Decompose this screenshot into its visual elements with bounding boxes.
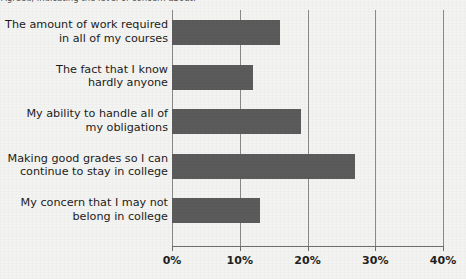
bar xyxy=(172,109,301,134)
gridline-40pct xyxy=(443,10,444,246)
category-label-line: My concern that I may not xyxy=(0,196,168,210)
x-tick-30pct xyxy=(375,246,376,251)
category-label: My concern that I may notbelong in colle… xyxy=(0,196,168,223)
category-label-line: The fact that I know xyxy=(0,63,168,77)
bar xyxy=(172,198,260,223)
x-tick-label: 20% xyxy=(294,254,320,267)
category-label: My ability to handle all ofmy obligation… xyxy=(0,107,168,134)
x-tick-label: 30% xyxy=(362,254,388,267)
x-tick-40pct xyxy=(443,246,444,251)
category-label-line: belong in college xyxy=(0,210,168,224)
x-tick-label: 10% xyxy=(227,254,253,267)
bar xyxy=(172,65,253,90)
category-label: The fact that I knowhardly anyone xyxy=(0,63,168,90)
figure-caption-clipped: Agreed, indicating the level of concern … xyxy=(0,0,466,5)
category-label-line: continue to stay in college xyxy=(0,165,168,179)
category-label-line: hardly anyone xyxy=(0,76,168,90)
x-tick-20pct xyxy=(308,246,309,251)
chart-page: Agreed, indicating the level of concern … xyxy=(0,0,466,279)
gridline-30pct xyxy=(375,10,376,246)
bar xyxy=(172,20,280,45)
bar-chart-plot-area: 0%10%20%30%40% The amount of work requir… xyxy=(0,10,466,256)
x-tick-label: 40% xyxy=(430,254,456,267)
category-label: The amount of work requiredin all of my … xyxy=(0,18,168,45)
category-label-line: in all of my courses xyxy=(0,32,168,46)
figure-caption-text: Agreed, indicating the level of concern … xyxy=(0,0,466,3)
category-label-line: my obligations xyxy=(0,121,168,135)
x-tick-10pct xyxy=(240,246,241,251)
x-tick-0pct xyxy=(172,246,173,251)
x-tick-label: 0% xyxy=(163,254,182,267)
category-label-line: Making good grades so I can xyxy=(0,152,168,166)
category-label-line: The amount of work required xyxy=(0,18,168,32)
category-label: Making good grades so I cancontinue to s… xyxy=(0,152,168,179)
gridline-20pct xyxy=(308,10,309,246)
bar xyxy=(172,154,355,179)
category-label-line: My ability to handle all of xyxy=(0,107,168,121)
